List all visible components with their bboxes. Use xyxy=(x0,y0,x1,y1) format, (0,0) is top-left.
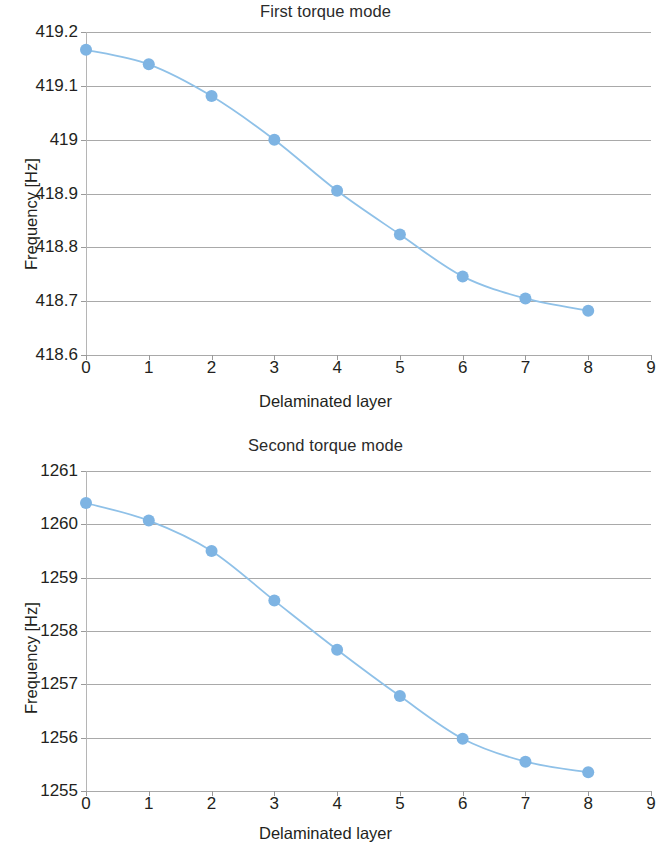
data-point-marker xyxy=(143,515,155,527)
series-line xyxy=(86,503,588,772)
x-axis-tick-label: 1 xyxy=(144,794,153,814)
data-point-marker xyxy=(519,292,531,304)
x-axis-tick-label: 0 xyxy=(81,794,90,814)
y-axis-tick-label: 1258 xyxy=(40,621,78,641)
chart-title: First torque mode xyxy=(0,2,651,21)
data-series xyxy=(86,32,651,355)
y-axis-tick-label: 418.6 xyxy=(35,345,78,365)
data-point-marker xyxy=(457,733,469,745)
y-axis-tick-label: 418.8 xyxy=(35,237,78,257)
gridline xyxy=(86,791,651,792)
y-axis-tick-label: 1255 xyxy=(40,781,78,801)
y-axis-tick-label: 1259 xyxy=(40,568,78,588)
data-point-marker xyxy=(457,270,469,282)
x-axis-tick-label: 4 xyxy=(332,358,341,378)
y-axis-tick-label: 419.1 xyxy=(35,76,78,96)
x-axis-tick-label: 3 xyxy=(270,794,279,814)
plot-area xyxy=(86,471,651,791)
x-axis-tick-label: 5 xyxy=(395,794,404,814)
x-axis-tick-label: 6 xyxy=(458,794,467,814)
x-axis-tick-label: 3 xyxy=(270,358,279,378)
x-axis-tick-label: 9 xyxy=(646,794,655,814)
y-axis-tick-label: 418.9 xyxy=(35,184,78,204)
y-axis-tick-label: 419 xyxy=(50,130,78,150)
gridline xyxy=(86,355,651,356)
y-axis-tick-label: 1257 xyxy=(40,674,78,694)
chart-first-torque-mode: First torque mode Frequency [Hz] 419.241… xyxy=(0,0,651,426)
x-axis-tick-labels: 0123456789 xyxy=(86,794,651,820)
data-point-marker xyxy=(80,44,92,56)
y-axis-tick-label: 1261 xyxy=(40,461,78,481)
data-point-marker xyxy=(143,58,155,70)
x-axis-label: Delaminated layer xyxy=(0,824,651,843)
x-axis-label: Delaminated layer xyxy=(0,392,651,411)
y-axis-tick-labels: 1261126012591258125712561255 xyxy=(0,471,78,791)
y-axis-tick-label: 1256 xyxy=(40,728,78,748)
x-axis-tick-label: 4 xyxy=(332,794,341,814)
data-point-marker xyxy=(519,756,531,768)
x-axis-tick-label: 2 xyxy=(207,794,216,814)
data-point-marker xyxy=(582,766,594,778)
y-axis-tick-label: 1260 xyxy=(40,514,78,534)
x-axis-tick-labels: 0123456789 xyxy=(86,358,651,384)
x-axis-tick-label: 7 xyxy=(521,794,530,814)
x-axis-tick-label: 7 xyxy=(521,358,530,378)
data-point-marker xyxy=(80,497,92,509)
data-point-marker xyxy=(206,545,218,557)
x-axis-tick-label: 2 xyxy=(207,358,216,378)
data-point-marker xyxy=(394,228,406,240)
series-line xyxy=(86,50,588,311)
x-axis-tick-label: 1 xyxy=(144,358,153,378)
y-axis-tick-label: 418.7 xyxy=(35,291,78,311)
plot-area xyxy=(86,32,651,355)
y-axis-tick-labels: 419.2419.1419418.9418.8418.7418.6 xyxy=(0,32,78,355)
data-point-marker xyxy=(331,185,343,197)
x-axis-tick-label: 8 xyxy=(583,794,592,814)
x-axis-tick-label: 0 xyxy=(81,358,90,378)
x-axis-tick-label: 9 xyxy=(646,358,655,378)
data-point-marker xyxy=(206,90,218,102)
data-point-marker xyxy=(331,644,343,656)
x-axis-tick-label: 6 xyxy=(458,358,467,378)
chart-title: Second torque mode xyxy=(0,436,651,455)
data-point-marker xyxy=(582,305,594,317)
data-series xyxy=(86,471,651,791)
x-axis-tick-label: 8 xyxy=(583,358,592,378)
data-point-marker xyxy=(394,690,406,702)
data-point-marker xyxy=(268,595,280,607)
chart-second-torque-mode: Second torque mode Frequency [Hz] 126112… xyxy=(0,426,651,852)
y-axis-tick-label: 419.2 xyxy=(35,22,78,42)
x-axis-tick-label: 5 xyxy=(395,358,404,378)
data-point-marker xyxy=(268,134,280,146)
